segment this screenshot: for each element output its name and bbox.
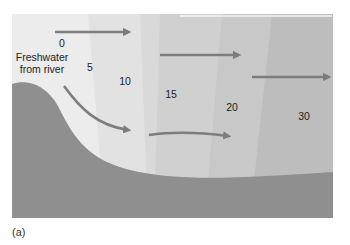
figure-caption: (a) bbox=[12, 226, 25, 238]
source-label-line1: Freshwater bbox=[16, 51, 69, 63]
salinity-label-30: 30 bbox=[298, 110, 310, 122]
source-label-line2: from river bbox=[20, 63, 65, 75]
estuary-salinity-diagram: 0 Freshwater from river 5 10 15 20 30 (a… bbox=[0, 0, 350, 245]
salinity-label-10: 10 bbox=[119, 75, 131, 87]
salinity-label-5: 5 bbox=[87, 61, 93, 73]
salinity-label-0: 0 bbox=[59, 37, 65, 49]
salinity-label-15: 15 bbox=[165, 88, 177, 100]
salinity-label-20: 20 bbox=[226, 101, 238, 113]
